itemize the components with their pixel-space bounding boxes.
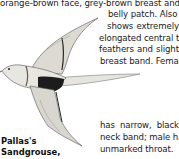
body-text-line: breast band. Female	[100, 56, 179, 67]
body-text-line: elongated central tail	[99, 33, 179, 44]
word: slight	[156, 44, 179, 55]
word: extremely	[137, 21, 179, 32]
word: shows	[107, 21, 133, 32]
word: feathers	[99, 44, 134, 55]
body-text-line: neck band; male has	[100, 132, 179, 143]
lower-wing	[30, 86, 82, 146]
body-text-line: unmarked throat.	[100, 144, 173, 155]
body-text-line: orange-brown face, grey-brown breast and…	[0, 0, 179, 9]
upper-wing	[30, 18, 98, 74]
word: and	[137, 44, 153, 55]
body-text-line: feathers and slight	[99, 44, 179, 55]
word: black	[157, 120, 179, 131]
species-caption-line2: Sandgrouse,	[1, 147, 60, 158]
body-text-line: has narrow, black	[100, 120, 179, 131]
tail	[55, 74, 140, 86]
body-text-line: belly patch. Also	[108, 9, 177, 20]
species-caption-line1: Pallas's	[1, 136, 37, 147]
word: narrow,	[120, 120, 152, 131]
body-text-line: shows extremely	[107, 21, 179, 32]
word: has	[100, 120, 115, 131]
